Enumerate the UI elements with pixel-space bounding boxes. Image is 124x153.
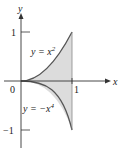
y-tick-label-neg1: −1 — [3, 125, 14, 136]
x-tick-label-0: 0 — [10, 84, 15, 95]
curve-label-x-squared: y = x2 — [30, 45, 56, 57]
x-axis-arrow-icon — [105, 79, 111, 84]
y-axis-label: y — [17, 3, 23, 14]
x-axis-label: x — [112, 76, 118, 87]
chart-canvas: y x 1 −1 0 1 y = x2 y = −x4 — [0, 0, 124, 153]
x-tick-label-1: 1 — [74, 84, 79, 95]
y-tick-label-1: 1 — [11, 27, 16, 38]
curve-label-neg-x-fourth: y = −x4 — [22, 102, 54, 114]
